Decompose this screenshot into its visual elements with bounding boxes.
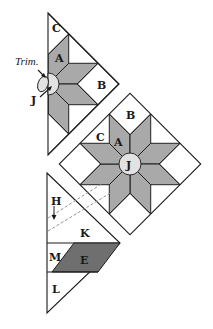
label-c: C xyxy=(96,131,105,144)
label-m: M xyxy=(49,251,61,264)
label-b: B xyxy=(97,79,106,92)
label-a: A xyxy=(113,136,123,149)
label-j: J xyxy=(30,94,36,107)
label-j: J xyxy=(125,159,131,172)
label-c: C xyxy=(52,22,61,35)
bottom-triangle: H K M E L xyxy=(47,173,120,313)
label-h: H xyxy=(51,195,61,208)
quilt-diagram: C A B J Trim. B C A J H K M E L xyxy=(0,0,213,329)
label-k: K xyxy=(80,227,90,240)
label-b: B xyxy=(126,109,135,122)
label-l: L xyxy=(52,283,60,296)
trim-annotation: Trim. xyxy=(15,55,39,67)
label-e: E xyxy=(80,254,88,267)
label-a: A xyxy=(54,52,64,65)
